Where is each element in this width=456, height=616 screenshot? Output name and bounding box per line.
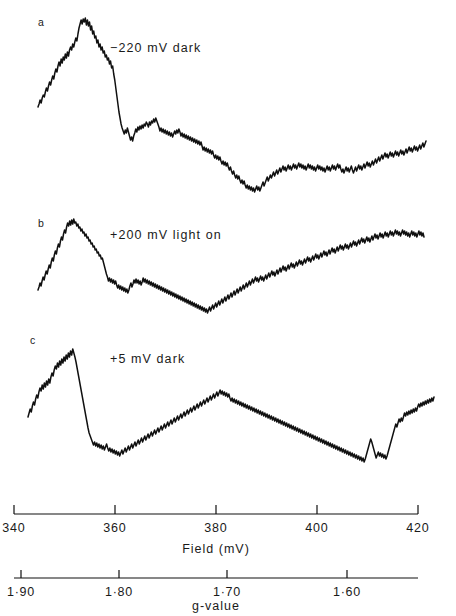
field-axis-tick-label: 400 bbox=[305, 521, 328, 535]
g-axis-tick-label: 1·80 bbox=[105, 585, 133, 599]
spectra-traces bbox=[28, 18, 434, 462]
field-axis-tick-label: 420 bbox=[406, 521, 429, 535]
spectrum-trace-c bbox=[28, 349, 434, 462]
g-value-axis: 1·901·801·701·60g-value bbox=[7, 570, 418, 613]
field-axis-tick-label: 380 bbox=[204, 521, 227, 535]
g-axis-tick-label: 1·90 bbox=[7, 585, 35, 599]
field-axis: 340360380400420Field (mV) bbox=[2, 505, 429, 556]
panel-caption-a: −220 mV dark bbox=[110, 41, 201, 55]
panel-letter-a: a bbox=[38, 16, 44, 28]
field-axis-tick-label: 360 bbox=[103, 521, 126, 535]
panel-letter-b: b bbox=[38, 217, 44, 229]
g-axis-title: g-value bbox=[192, 599, 240, 613]
g-axis-tick-label: 1·60 bbox=[333, 585, 361, 599]
panel-caption-b: +200 mV light on bbox=[110, 228, 222, 242]
panel-letter-c: c bbox=[30, 334, 36, 346]
g-axis-tick-label: 1·70 bbox=[213, 585, 241, 599]
figure-root: a−220 mV darkb+200 mV light onc+5 mV dar… bbox=[0, 0, 456, 616]
spectrum-trace-b bbox=[38, 219, 424, 313]
spectrum-trace-a bbox=[38, 18, 426, 192]
epr-spectra-figure: a−220 mV darkb+200 mV light onc+5 mV dar… bbox=[0, 0, 456, 616]
panel-labels: a−220 mV darkb+200 mV light onc+5 mV dar… bbox=[30, 16, 222, 366]
panel-caption-c: +5 mV dark bbox=[110, 352, 185, 366]
field-axis-tick-label: 340 bbox=[2, 521, 25, 535]
field-axis-title: Field (mV) bbox=[182, 542, 250, 556]
